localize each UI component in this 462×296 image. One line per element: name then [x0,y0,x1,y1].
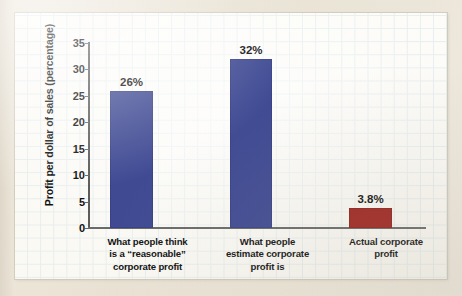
y-tick-mark [85,69,89,70]
bar-value-label: 3.8% [357,193,383,205]
plot-area: Profit per dollar of sales (percentage) … [15,13,447,279]
y-tick-label: 5 [63,196,85,208]
bar-rect [349,208,392,228]
y-tick-label: 35 [63,37,85,49]
y-tick-mark [85,122,89,123]
y-tick-label: 0 [63,222,85,234]
category-label-line: profit [315,248,447,260]
category-label-line: profit is [195,261,340,273]
y-tick-mark [85,96,89,97]
chart-panel: Profit per dollar of sales (percentage) … [15,13,447,279]
y-tick-label: 30 [63,63,85,75]
category-label-3: Actual corporateprofit [315,236,447,261]
bar-3[interactable]: 3.8% [349,182,392,228]
y-tick-label: 25 [63,90,85,102]
y-tick-mark [85,149,89,150]
bar-rect [110,91,153,228]
bar-rect [230,59,272,228]
y-tick-label: 20 [63,116,85,128]
y-tick-mark [85,228,89,229]
bar-1[interactable]: 26% [110,65,153,228]
y-tick-mark [85,43,89,44]
bar-value-label: 26% [120,76,143,88]
y-tick-label: 10 [63,169,85,181]
y-tick-label: 15 [63,143,85,155]
y-tick-mark [85,175,89,176]
scanned-page: Profit per dollar of sales (percentage) … [0,0,462,296]
y-tick-mark [85,202,89,203]
category-label-line: Actual corporate [315,236,447,248]
bar-value-label: 32% [239,44,262,56]
bar-2[interactable]: 32% [230,33,272,228]
y-axis-title: Profit per dollar of sales (percentage) [43,15,55,215]
